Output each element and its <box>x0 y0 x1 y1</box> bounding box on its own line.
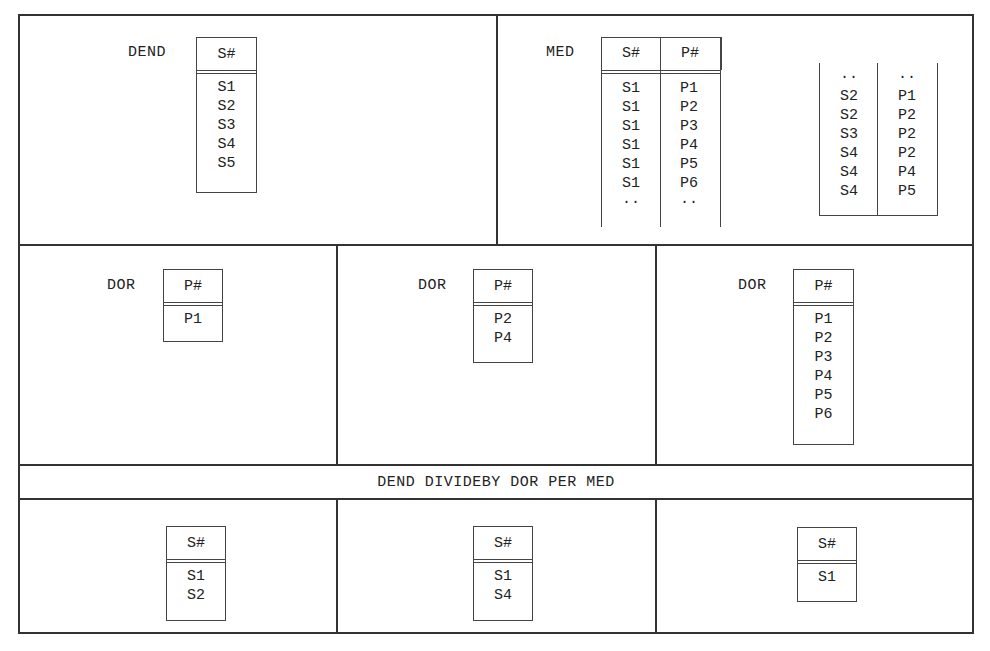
med-cell: S1 <box>602 117 660 136</box>
dor-header-3: P# <box>794 270 853 306</box>
med-header-p: P# <box>661 44 719 63</box>
result-relation-2: S# S1S4 <box>473 526 533 621</box>
dor-row: P1 <box>794 310 853 329</box>
dor-row: P2 <box>474 310 532 329</box>
divider-mid-col2 <box>655 244 657 465</box>
med-relation-part2: ····S2P1S2P2S3P2S4P2S4P4S4P5 <box>819 63 938 216</box>
dor-header-2: P# <box>474 270 532 306</box>
dor-label-3: DOR <box>738 277 767 295</box>
med-cell: P1 <box>660 79 718 98</box>
med-cell: S2 <box>820 106 878 125</box>
med-cell: S1 <box>602 155 660 174</box>
dend-row: S3 <box>197 116 256 135</box>
dor-label-1: DOR <box>107 277 136 295</box>
med-header-s: S# <box>602 44 660 63</box>
med-cell: S4 <box>820 144 878 163</box>
med-cell: S1 <box>602 174 660 193</box>
dor-row: P6 <box>794 405 853 424</box>
med-cell: P4 <box>660 136 718 155</box>
dor-relation-2: P# P2P4 <box>473 269 533 363</box>
result-row: S1 <box>167 567 225 586</box>
dend-row: S4 <box>197 135 256 154</box>
dend-row: S2 <box>197 97 256 116</box>
med-cell: ·· <box>602 193 660 212</box>
result-row: S1 <box>798 568 856 587</box>
med-relation-part1: S# P# S1P1S1P2S1P3S1P4S1P5S1P6···· <box>601 37 721 227</box>
dend-relation: S# S1S2S3S4S5 <box>196 37 257 193</box>
med-cell: P2 <box>660 98 718 117</box>
dor-relation-3: P# P1P2P3P4P5P6 <box>793 269 854 445</box>
med-cell: ·· <box>878 68 936 87</box>
med-label: MED <box>546 44 575 62</box>
result-row: S1 <box>474 567 532 586</box>
med-cell: P2 <box>878 125 936 144</box>
med-cell: ·· <box>660 193 718 212</box>
result-relation-1: S# S1S2 <box>166 526 226 621</box>
med-cell: P5 <box>660 155 718 174</box>
dor-relation-1: P# P1 <box>163 269 223 342</box>
med-cell: P2 <box>878 106 936 125</box>
med-cell: P2 <box>878 144 936 163</box>
result-header-3: S# <box>798 528 856 564</box>
division-expression: DEND DIVIDEBY DOR PER MED <box>20 466 972 499</box>
divider-top-col <box>496 14 498 245</box>
dor-header-1: P# <box>164 270 222 306</box>
result-row: S2 <box>167 586 225 605</box>
dend-label: DEND <box>128 44 166 62</box>
med-cell: S1 <box>602 79 660 98</box>
med-cell: S1 <box>602 136 660 155</box>
dor-row: P4 <box>474 329 532 348</box>
result-relation-3: S# S1 <box>797 527 857 602</box>
med-cell: S3 <box>820 125 878 144</box>
med-cell: P1 <box>878 87 936 106</box>
med-cell: P6 <box>660 174 718 193</box>
dend-row: S1 <box>197 78 256 97</box>
result-row: S4 <box>474 586 532 605</box>
med-cell: S4 <box>820 182 878 201</box>
dor-label-2: DOR <box>418 277 447 295</box>
dor-row: P3 <box>794 348 853 367</box>
med-cell: P5 <box>878 182 936 201</box>
med-cell: ·· <box>820 68 878 87</box>
med-cell: S1 <box>602 98 660 117</box>
dend-row: S5 <box>197 154 256 173</box>
med-cell: S2 <box>820 87 878 106</box>
dor-row: P2 <box>794 329 853 348</box>
divider-bot-col2 <box>655 498 657 634</box>
dend-header: S# <box>197 38 256 74</box>
divider-mid-col1 <box>336 244 338 465</box>
med-cell: P4 <box>878 163 936 182</box>
dor-row: P1 <box>164 310 222 329</box>
dor-row: P5 <box>794 386 853 405</box>
dor-row: P4 <box>794 367 853 386</box>
result-header-2: S# <box>474 527 532 563</box>
divider-bot-col1 <box>336 498 338 634</box>
result-header-1: S# <box>167 527 225 563</box>
med-cell: S4 <box>820 163 878 182</box>
med-cell: P3 <box>660 117 718 136</box>
